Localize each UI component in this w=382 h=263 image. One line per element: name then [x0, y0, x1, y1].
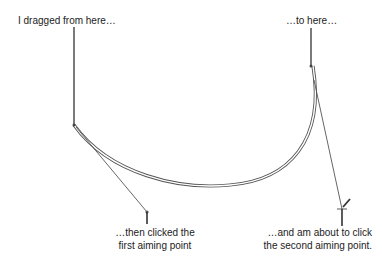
second-aiming-point[interactable] [337, 209, 347, 226]
annotation-second-line1: …and am about to click [248, 226, 372, 239]
annotation-second-line2: the second aiming point. [248, 239, 372, 252]
annotation-first-aiming-point: …then clicked the first aiming point [105, 226, 205, 252]
annotation-first-line2: first aiming point [105, 239, 205, 252]
diagram-canvas [0, 0, 382, 263]
annotation-drag-start: I dragged from here… [18, 14, 116, 27]
aim-line-first [76, 127, 147, 212]
annotation-drag-end: …to here… [286, 14, 337, 27]
aim-line-second [314, 80, 342, 209]
drag-end-point[interactable] [310, 65, 313, 68]
pen-cursor-icon [343, 199, 350, 207]
drag-start-point[interactable] [73, 124, 76, 127]
first-aiming-point[interactable] [145, 210, 148, 224]
annotation-first-line1: …then clicked the [105, 226, 205, 239]
annotation-second-aiming-point: …and am about to click the second aiming… [248, 226, 372, 252]
